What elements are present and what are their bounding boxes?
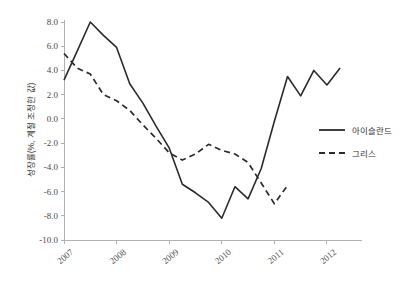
series-line-iceland (64, 22, 340, 218)
y-tick-label: 2.0 (47, 90, 59, 100)
x-tick-group: 200720082009201020112012 (55, 240, 338, 266)
y-tick-label: 8.0 (47, 17, 59, 27)
x-tick-label: 2008 (108, 247, 129, 267)
x-tick-label: 2011 (266, 247, 286, 266)
series-line-greece (64, 53, 288, 203)
y-tick-label: 0.0 (47, 114, 59, 124)
x-tick-label: 2009 (160, 247, 181, 267)
y-tick-label: -4.0 (44, 162, 59, 172)
x-tick-label: 2007 (55, 247, 76, 267)
y-axis-title-text: 성장률(%, 계절 조정한 값) (26, 83, 36, 178)
y-tick-label: -2.0 (44, 138, 59, 148)
legend-label-iceland: 아이슬란드 (352, 126, 392, 136)
y-tick-group: 8.06.04.02.00.0-2.0-4.0-6.0-8.0-10.0 (39, 17, 64, 245)
y-axis-title: 성장률(%, 계절 조정한 값) (26, 83, 36, 178)
legend-label-greece: 그리스 (352, 149, 376, 159)
y-tick-label: -8.0 (44, 211, 59, 221)
growth-rate-line-chart: 8.06.04.02.00.0-2.0-4.0-6.0-8.0-10.0 200… (0, 0, 417, 282)
x-axis-group: 200720082009201020112012 (55, 240, 362, 266)
x-tick-label: 2010 (213, 247, 234, 267)
chart-canvas: 8.06.04.02.00.0-2.0-4.0-6.0-8.0-10.0 200… (0, 0, 417, 282)
y-tick-label: -10.0 (39, 235, 58, 245)
x-tick-label: 2012 (318, 247, 338, 266)
y-tick-label: 4.0 (47, 65, 59, 75)
series-group (64, 22, 340, 218)
chart-legend: 아이슬란드그리스 (319, 126, 392, 159)
y-tick-label: 6.0 (47, 41, 59, 51)
y-axis-group: 8.06.04.02.00.0-2.0-4.0-6.0-8.0-10.0 (39, 17, 64, 245)
y-tick-label: -6.0 (44, 187, 59, 197)
